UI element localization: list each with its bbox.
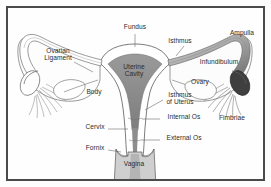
label-cervix: Cervix (86, 123, 105, 130)
label-ovarian-ligament: Ovarian Ligament (44, 47, 72, 62)
label-vagina: Vagina (124, 160, 144, 167)
label-external-os: External Os (167, 134, 202, 141)
label-ovary: Ovary (191, 78, 209, 85)
label-fundus: Fundus (124, 23, 146, 30)
label-isthmus-of-uterus: Isthmus of Uterus (166, 91, 193, 106)
cervical-canal (132, 128, 138, 152)
anatomy-figure: Fundus Isthmus Ampulla Ovarian Ligament … (0, 0, 271, 187)
label-uterine-cavity: Uterine Cavity (123, 63, 145, 78)
label-fimbriae: Fimbriae (219, 114, 245, 121)
leader-isthmus (176, 46, 184, 56)
label-isthmus: Isthmus (168, 37, 191, 44)
label-ampulla: Ampulla (230, 29, 254, 36)
label-infundibulum: Infundibulum (200, 58, 238, 65)
vaginal-canal (129, 154, 141, 187)
label-fornix: Fornix (86, 144, 105, 151)
label-body: Body (86, 88, 101, 95)
leader-fornix (108, 150, 121, 152)
label-internal-os: Internal Os (168, 113, 201, 120)
